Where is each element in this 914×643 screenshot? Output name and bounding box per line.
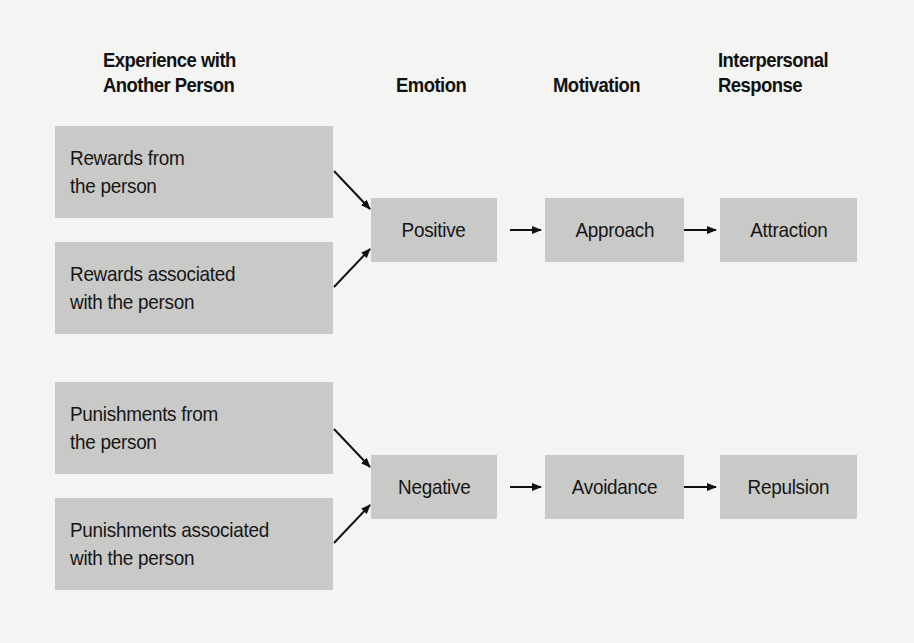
source-box-rewards-from: Rewards from the person	[55, 126, 333, 218]
source-box-line1: Punishments associated	[70, 516, 307, 544]
emotion-box-negative: Negative	[371, 455, 497, 519]
heading-emotion: Emotion	[396, 72, 466, 97]
response-box-attraction: Attraction	[720, 198, 857, 262]
source-box-line1: Punishments from	[70, 400, 307, 428]
heading-experience-line1: Experience with	[103, 47, 236, 72]
source-box-line2: with the person	[70, 288, 307, 316]
source-box-punishments-from: Punishments from the person	[55, 382, 333, 474]
source-box-line1: Rewards from	[70, 144, 307, 172]
motivation-box-approach: Approach	[545, 198, 684, 262]
source-box-rewards-associated: Rewards associated with the person	[55, 242, 333, 334]
heading-experience-line2: Another Person	[103, 72, 236, 97]
source-box-line2: with the person	[70, 544, 307, 572]
heading-response: Interpersonal Response	[718, 47, 828, 97]
arrow-rewards-from-to-positive	[334, 171, 370, 209]
source-box-punishments-associated: Punishments associated with the person	[55, 498, 333, 590]
response-label: Repulsion	[748, 473, 830, 501]
motivation-label: Avoidance	[572, 473, 658, 501]
heading-response-line2: Response	[718, 72, 828, 97]
arrow-rewards-associated-to-positive	[334, 249, 370, 287]
arrow-punishments-associated-to-negative	[334, 505, 370, 543]
motivation-box-avoidance: Avoidance	[545, 455, 684, 519]
arrow-punishments-from-to-negative	[334, 429, 370, 467]
response-box-repulsion: Repulsion	[720, 455, 857, 519]
heading-motivation: Motivation	[553, 72, 640, 97]
heading-experience: Experience with Another Person	[103, 47, 236, 97]
heading-response-line1: Interpersonal	[718, 47, 828, 72]
heading-emotion-label: Emotion	[396, 72, 466, 97]
heading-motivation-label: Motivation	[553, 72, 640, 97]
motivation-label: Approach	[575, 216, 654, 244]
source-box-line2: the person	[70, 172, 307, 200]
source-box-line1: Rewards associated	[70, 260, 307, 288]
source-box-line2: the person	[70, 428, 307, 456]
emotion-label: Positive	[402, 216, 466, 244]
response-label: Attraction	[750, 216, 827, 244]
emotion-label: Negative	[398, 473, 470, 501]
emotion-box-positive: Positive	[371, 198, 497, 262]
